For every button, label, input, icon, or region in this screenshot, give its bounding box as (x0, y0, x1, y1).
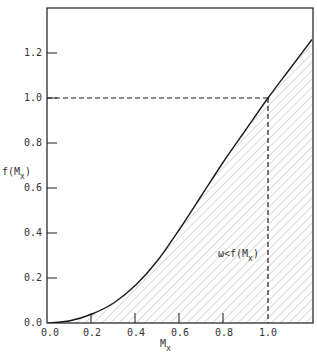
svg-text:Mx: Mx (160, 338, 171, 353)
x-tick-label: 0.6 (171, 327, 189, 338)
x-tick-label: 0.0 (41, 327, 59, 338)
x-tick-label: 1.0 (259, 327, 277, 338)
y-axis (47, 53, 57, 278)
y-tick-label: 0.0 (24, 317, 42, 328)
y-tick-label: 0.8 (24, 137, 42, 148)
y-tick-label: 0.4 (24, 227, 42, 238)
x-tick-label: 0.4 (127, 327, 145, 338)
x-tick-label: 0.2 (83, 327, 101, 338)
svg-text:f(Mx): f(Mx) (2, 166, 31, 181)
y-tick-label: 0.6 (24, 182, 42, 193)
y-tick-label: 0.2 (24, 272, 42, 283)
shaded-area-under-curve (48, 40, 312, 324)
x-axis-label: Mx (160, 338, 171, 353)
x-tick-label: 0.8 (215, 327, 233, 338)
y-tick-label: 1.2 (24, 47, 42, 58)
y-axis-label: f(Mx) (2, 166, 31, 181)
chart: 0.0 0.2 0.4 0.6 0.8 1.0 1.2 0.0 0.2 0.4 … (0, 0, 317, 358)
y-tick-label: 1.0 (24, 92, 42, 103)
